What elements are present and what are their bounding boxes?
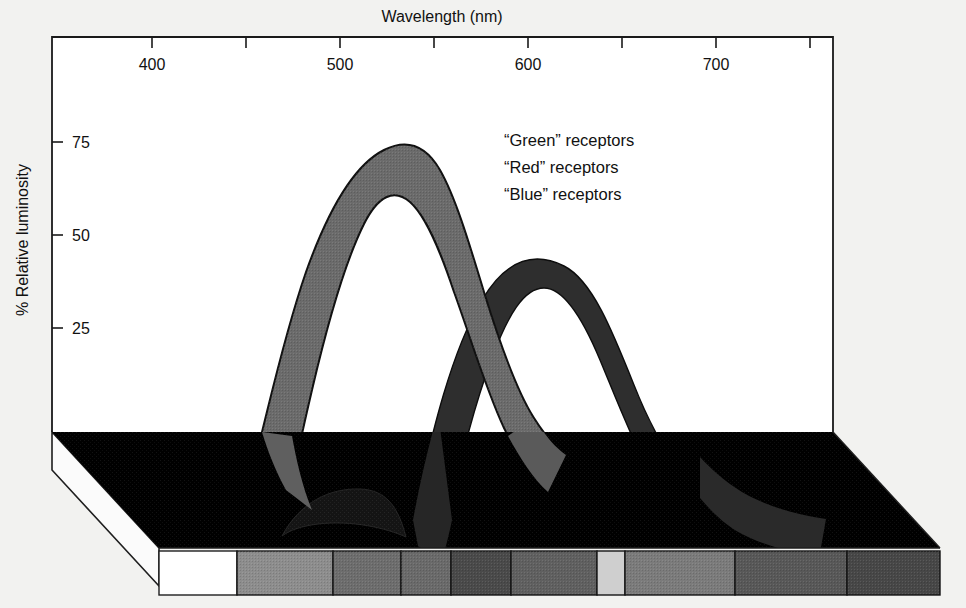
spectrum-swatch-blue-texture <box>401 551 451 595</box>
x-tick-label-700: 700 <box>703 56 730 73</box>
spectrum-strip <box>159 551 940 595</box>
y-tick-label-50: 50 <box>72 227 90 244</box>
x-axis-title: Wavelength (nm) <box>381 8 502 25</box>
spectrum-swatch-red-texture <box>735 551 847 595</box>
x-tick-label-400: 400 <box>139 56 166 73</box>
spectrum-swatch-green-texture <box>511 551 597 595</box>
y-tick-label-25: 25 <box>72 320 90 337</box>
spectrum-swatch-indigo-texture <box>333 551 401 595</box>
spectrum-swatch-cyan-texture <box>451 551 511 595</box>
x-tick-label-600: 600 <box>515 56 542 73</box>
legend-entry-blue: “Blue” receptors <box>504 185 621 203</box>
spectrum-swatch-deep-red-texture <box>847 551 940 595</box>
spectrum-swatch-orange-texture <box>625 551 735 595</box>
legend-entry-red: “Red” receptors <box>504 158 619 176</box>
spectrum-swatch-white-reference <box>159 551 237 595</box>
spectrum-swatch-violet-texture <box>237 551 333 595</box>
legend: “Green” receptors “Red” receptors “Blue”… <box>504 131 634 203</box>
luminosity-spectrum-chart: 400 500 600 700 Wavelength (nm) 75 50 25… <box>0 0 966 608</box>
y-axis-title: % Relative luminosity <box>14 164 31 316</box>
figure-container: 400 500 600 700 Wavelength (nm) 75 50 25… <box>0 0 966 608</box>
x-tick-label-500: 500 <box>327 56 354 73</box>
y-tick-label-75: 75 <box>72 134 90 151</box>
legend-entry-green: “Green” receptors <box>504 131 634 149</box>
spectrum-swatch-yellow <box>597 551 625 595</box>
